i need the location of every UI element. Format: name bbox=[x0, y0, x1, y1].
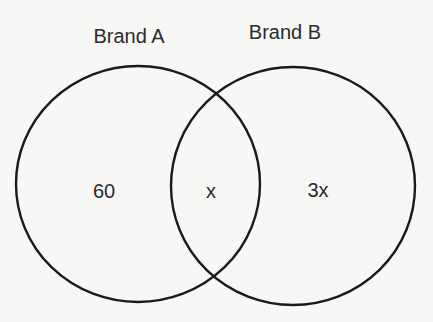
venn-diagram: Brand A Brand B 60 x 3x bbox=[0, 0, 433, 322]
brand-b-label: Brand B bbox=[249, 22, 321, 42]
brand-a-label: Brand A bbox=[93, 26, 164, 46]
venn-circles bbox=[0, 0, 433, 322]
brand-a-circle bbox=[16, 66, 260, 302]
brand-b-only-value: 3x bbox=[307, 180, 328, 200]
brand-a-only-value: 60 bbox=[93, 181, 115, 201]
intersection-value: x bbox=[206, 181, 216, 201]
